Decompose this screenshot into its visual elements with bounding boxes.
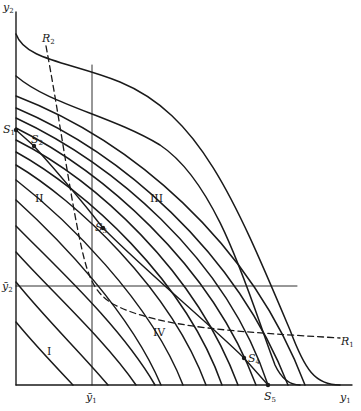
r2-curve: [46, 46, 340, 338]
curve: [16, 34, 340, 385]
r2-label: R2: [42, 33, 55, 46]
region-label-ii: II: [35, 193, 44, 204]
x-axis-label: y1: [340, 392, 351, 405]
region-label-iv: IV: [153, 327, 165, 338]
point-label-s2: S2: [31, 134, 43, 147]
point-s5: [266, 383, 270, 387]
point-label-s4: S4: [248, 353, 260, 366]
point-label-s1: S1: [3, 124, 15, 137]
region-label-i: I: [47, 346, 51, 357]
ybar1-label: ȳ1: [86, 392, 97, 405]
point-label-s3: S3: [95, 222, 107, 235]
point-s4: [242, 356, 246, 360]
curve: [16, 180, 183, 385]
curve: [16, 96, 305, 385]
indifference-diagram: [0, 0, 361, 411]
curve: [16, 252, 136, 385]
y-axis-label: y2: [3, 2, 14, 15]
curve: [16, 200, 161, 385]
ybar2-label: ȳ2: [2, 281, 13, 294]
point-label-s5: S5: [264, 391, 276, 404]
curve: [16, 322, 73, 385]
r1-label: R1: [341, 336, 354, 349]
region-label-iii: III: [150, 193, 163, 204]
